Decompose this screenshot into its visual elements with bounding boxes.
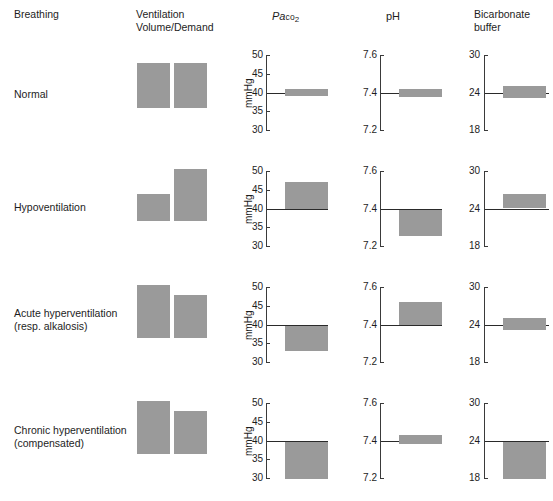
paco2-tick-35 <box>266 343 270 344</box>
paco2-ticklabel-30: 30 <box>242 124 263 135</box>
ventilation-demand-bar <box>174 63 207 108</box>
ventilation-volume-bar <box>137 401 170 454</box>
paco2-tick-30 <box>266 362 270 363</box>
bicarbonate-tick-18 <box>484 362 488 363</box>
ph-ticklabel-7-2: 7.2 <box>350 240 377 251</box>
paco2-tick-50 <box>266 171 270 172</box>
ph-ticklabel-7-2: 7.2 <box>350 356 377 367</box>
bicarbonate-tick-30 <box>484 403 488 404</box>
bicarbonate-value-bar-normal <box>503 86 546 97</box>
paco2-ticklabel-45: 45 <box>242 416 263 427</box>
paco2-tick-45 <box>266 422 270 423</box>
bicarbonate-ticklabel-18: 18 <box>458 356 480 367</box>
paco2-ticklabel-45: 45 <box>242 68 263 79</box>
bicarbonate-tick-18 <box>484 246 488 247</box>
paco2-ticklabel-40: 40 <box>242 203 263 214</box>
ph-ticklabel-7-6: 7.6 <box>350 281 377 292</box>
paco2-ticklabel-40: 40 <box>242 435 263 446</box>
ph-tick-7-6 <box>380 287 384 288</box>
paco2-tick-50 <box>266 55 270 56</box>
row-label-normal: Normal <box>14 88 48 101</box>
ph-tick-7-6 <box>380 55 384 56</box>
ph-value-bar-normal <box>399 89 442 97</box>
bicarbonate-ticklabel-24: 24 <box>458 87 480 98</box>
paco2-ticklabel-40: 40 <box>242 319 263 330</box>
ph-tick-7-6 <box>380 403 384 404</box>
ph-ticklabel-7-6: 7.6 <box>350 49 377 60</box>
ph-ticklabel-7-6: 7.6 <box>350 397 377 408</box>
paco2-ticklabel-45: 45 <box>242 300 263 311</box>
ph-tick-7-2 <box>380 130 384 131</box>
bicarbonate-ticklabel-24: 24 <box>458 203 480 214</box>
paco2-ticklabel-35: 35 <box>242 105 263 116</box>
ph-reference-line-acute-hyperventilation <box>381 325 442 326</box>
paco2-reference-line-hypoventilation <box>267 209 328 210</box>
paco2-pa-text: Pa <box>272 10 285 22</box>
acid-base-figure: Breathing Ventilation Volume/Demand Paco… <box>0 0 553 501</box>
paco2-value-bar-normal <box>285 89 328 96</box>
paco2-ticklabel-40: 40 <box>242 87 263 98</box>
paco2-ticklabel-35: 35 <box>242 221 263 232</box>
bicarbonate-ticklabel-30: 30 <box>458 397 480 408</box>
ph-tick-7-2 <box>380 478 384 479</box>
paco2-subscript: 2 <box>295 15 299 24</box>
paco2-tick-35 <box>266 111 270 112</box>
bicarbonate-ticklabel-30: 30 <box>458 281 480 292</box>
ventilation-volume-bar <box>137 63 170 108</box>
ventilation-chart-acute-hyperventilation <box>137 282 209 338</box>
ph-ticklabel-7-4: 7.4 <box>350 319 377 330</box>
bicarbonate-ticklabel-30: 30 <box>458 165 480 176</box>
bicarbonate-ticklabel-24: 24 <box>458 319 480 330</box>
ph-ticklabel-7-2: 7.2 <box>350 472 377 483</box>
paco2-co-text: co <box>285 12 294 22</box>
paco2-value-bar-acute-hyperventilation <box>285 326 328 352</box>
bicarbonate-value-bar-chronic-hyperventilation <box>503 442 546 480</box>
ventilation-chart-chronic-hyperventilation <box>137 398 209 454</box>
ventilation-chart-normal <box>137 58 209 108</box>
paco2-ticklabel-45: 45 <box>242 184 263 195</box>
paco2-tick-45 <box>266 190 270 191</box>
bicarbonate-ticklabel-18: 18 <box>458 124 480 135</box>
paco2-ticklabel-30: 30 <box>242 240 263 251</box>
ventilation-volume-bar <box>137 194 170 221</box>
ph-ticklabel-7-2: 7.2 <box>350 124 377 135</box>
bicarbonate-ticklabel-18: 18 <box>458 240 480 251</box>
paco2-value-bar-hypoventilation <box>285 182 328 209</box>
paco2-ticklabel-35: 35 <box>242 337 263 348</box>
column-header-breathing: Breathing <box>14 8 59 21</box>
paco2-ticklabel-50: 50 <box>242 165 263 176</box>
column-header-ventilation: Ventilation Volume/Demand <box>136 8 214 33</box>
ventilation-chart-hypoventilation <box>137 163 209 221</box>
bicarbonate-ticklabel-30: 30 <box>458 49 480 60</box>
ph-tick-7-6 <box>380 171 384 172</box>
ph-value-bar-chronic-hyperventilation <box>399 435 442 444</box>
bicarbonate-reference-line-hypoventilation <box>485 209 549 210</box>
ph-tick-7-2 <box>380 362 384 363</box>
paco2-tick-30 <box>266 246 270 247</box>
paco2-ticklabel-30: 30 <box>242 472 263 483</box>
paco2-tick-50 <box>266 287 270 288</box>
column-header-bicarbonate: Bicarbonate buffer <box>474 8 530 33</box>
row-label-acute-hyperventilation: Acute hyperventilation (resp. alkalosis) <box>14 307 117 333</box>
bicarbonate-ticklabel-18: 18 <box>458 472 480 483</box>
row-label-hypoventilation: Hypoventilation <box>14 201 86 214</box>
bicarbonate-tick-30 <box>484 171 488 172</box>
paco2-ticklabel-30: 30 <box>242 356 263 367</box>
ventilation-demand-bar <box>174 169 207 221</box>
ph-ticklabel-7-4: 7.4 <box>350 203 377 214</box>
paco2-tick-30 <box>266 478 270 479</box>
bicarbonate-tick-30 <box>484 287 488 288</box>
column-header-ph: pH <box>386 10 400 23</box>
ph-ticklabel-7-6: 7.6 <box>350 165 377 176</box>
paco2-tick-30 <box>266 130 270 131</box>
paco2-ticklabel-50: 50 <box>242 281 263 292</box>
paco2-tick-35 <box>266 227 270 228</box>
ventilation-volume-bar <box>137 285 170 338</box>
paco2-ticklabel-50: 50 <box>242 397 263 408</box>
paco2-ticklabel-35: 35 <box>242 453 263 464</box>
ph-tick-7-2 <box>380 246 384 247</box>
bicarbonate-tick-30 <box>484 55 488 56</box>
bicarbonate-tick-18 <box>484 478 488 479</box>
bicarbonate-ticklabel-24: 24 <box>458 435 480 446</box>
row-label-chronic-hyperventilation: Chronic hyperventilation (compensated) <box>14 424 127 450</box>
